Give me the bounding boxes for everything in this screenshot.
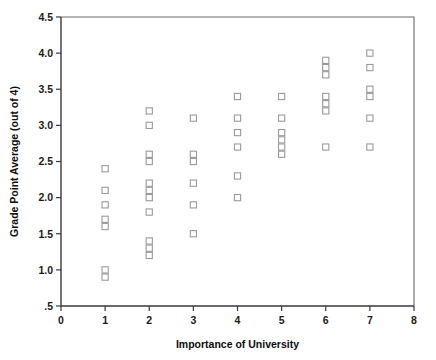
data-point-marker <box>190 115 196 121</box>
data-point-marker <box>190 180 196 186</box>
data-point-marker <box>279 137 285 143</box>
data-point-marker <box>323 72 329 78</box>
data-point-marker <box>367 144 373 150</box>
data-point-marker <box>102 223 108 229</box>
data-point-marker <box>190 202 196 208</box>
y-axis-title: Grade Point Average (out of 4) <box>8 86 20 237</box>
data-point-marker <box>146 245 152 251</box>
data-point-marker <box>102 166 108 172</box>
data-point-marker <box>234 93 240 99</box>
x-tick-label: 3 <box>190 314 196 326</box>
y-tick-label: 4.0 <box>38 47 53 59</box>
data-point-marker <box>323 57 329 63</box>
data-point-marker <box>279 144 285 150</box>
x-tick-label: 2 <box>146 314 152 326</box>
data-point-marker <box>146 151 152 157</box>
data-point-marker <box>102 202 108 208</box>
plot-frame <box>61 17 414 306</box>
x-tick-label: 7 <box>367 314 373 326</box>
data-point-marker <box>234 144 240 150</box>
data-point-marker <box>279 130 285 136</box>
data-point-marker <box>146 209 152 215</box>
data-point-marker <box>234 115 240 121</box>
data-point-marker <box>190 231 196 237</box>
data-point-marker <box>367 64 373 70</box>
data-point-marker <box>102 216 108 222</box>
data-point-marker <box>234 195 240 201</box>
data-point-marker <box>279 93 285 99</box>
data-point-marker <box>367 50 373 56</box>
data-point-marker <box>190 158 196 164</box>
data-point-marker <box>146 252 152 258</box>
y-tick-label: 1.0 <box>38 264 53 276</box>
y-tick-label: 2.0 <box>38 191 53 203</box>
data-point-marker <box>279 115 285 121</box>
x-tick-label: 0 <box>58 314 64 326</box>
data-point-marker <box>323 101 329 107</box>
data-point-marker <box>102 187 108 193</box>
data-point-marker <box>323 108 329 114</box>
y-tick-label: 2.5 <box>38 155 53 167</box>
x-tick-label: 5 <box>279 314 285 326</box>
data-point-marker <box>146 108 152 114</box>
data-point-marker <box>234 130 240 136</box>
data-point-marker <box>323 93 329 99</box>
data-point-marker <box>190 151 196 157</box>
y-tick-label: 4.5 <box>38 11 53 23</box>
y-tick-label: 1.5 <box>38 228 53 240</box>
chart-canvas: .51.01.52.02.53.03.54.04.5012345678Impor… <box>0 0 436 360</box>
data-point-marker <box>146 187 152 193</box>
data-point-marker <box>323 144 329 150</box>
x-axis-title: Importance of University <box>176 338 299 350</box>
data-point-marker <box>102 267 108 273</box>
data-point-marker <box>146 180 152 186</box>
data-point-marker <box>146 195 152 201</box>
data-point-marker <box>367 93 373 99</box>
data-point-marker <box>234 173 240 179</box>
data-point-marker <box>367 115 373 121</box>
y-tick-label: 3.5 <box>38 83 53 95</box>
data-point-marker <box>367 86 373 92</box>
x-tick-label: 6 <box>323 314 329 326</box>
data-point-marker <box>146 158 152 164</box>
x-tick-label: 8 <box>411 314 417 326</box>
y-tick-label: .5 <box>44 300 53 312</box>
data-point-marker <box>279 151 285 157</box>
data-point-marker <box>146 122 152 128</box>
data-point-marker <box>146 238 152 244</box>
data-point-marker <box>102 274 108 280</box>
scatter-plot-figure: .51.01.52.02.53.03.54.04.5012345678Impor… <box>0 0 436 360</box>
y-tick-label: 3.0 <box>38 119 53 131</box>
data-point-marker <box>323 64 329 70</box>
x-tick-label: 1 <box>102 314 108 326</box>
x-tick-label: 4 <box>235 314 241 326</box>
